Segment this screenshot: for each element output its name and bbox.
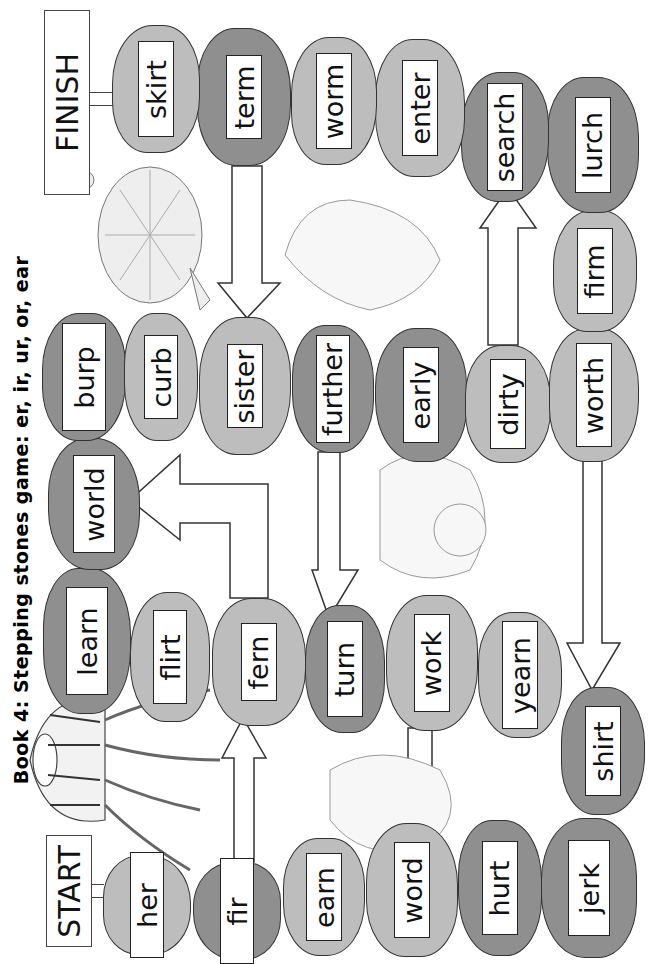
stone-fir[interactable]: fir bbox=[193, 862, 281, 960]
stone-word: further bbox=[318, 342, 349, 435]
stone-word: enter bbox=[405, 72, 436, 144]
stone-early[interactable]: early bbox=[375, 328, 467, 462]
stone-skirt[interactable]: skirt bbox=[112, 25, 200, 153]
stone-word: early bbox=[406, 361, 437, 429]
stone-earn[interactable]: earn bbox=[283, 838, 365, 956]
start-label: START bbox=[52, 845, 87, 938]
stone-lurch[interactable]: lurch bbox=[547, 77, 639, 213]
stone-word: lurch bbox=[578, 111, 609, 178]
stone-word: turn bbox=[330, 641, 361, 696]
stone-word: worth bbox=[579, 356, 610, 433]
stone-firm[interactable]: firm bbox=[553, 210, 637, 332]
stone-burp[interactable]: burp bbox=[42, 313, 126, 441]
stone-curb[interactable]: curb bbox=[124, 313, 198, 441]
stone-further[interactable]: further bbox=[292, 325, 374, 453]
stone-work[interactable]: work bbox=[386, 595, 478, 731]
stone-yearn[interactable]: yearn bbox=[478, 612, 562, 738]
stone-word: dirty bbox=[493, 373, 524, 435]
stone-word: her bbox=[132, 883, 163, 928]
finish-box: FINISH bbox=[44, 10, 90, 195]
stone-word: earn bbox=[309, 867, 340, 928]
stone-her[interactable]: her bbox=[103, 855, 191, 955]
stone-word: yearn bbox=[505, 637, 536, 714]
stone-shirt[interactable]: shirt bbox=[561, 687, 645, 815]
turtle-icon bbox=[70, 167, 210, 310]
stone-word: fern bbox=[244, 635, 275, 689]
stone-jerk[interactable]: jerk bbox=[541, 818, 637, 958]
stone-worth[interactable]: worth bbox=[549, 328, 639, 462]
fairy-icon bbox=[285, 200, 486, 852]
finish-label: FINISH bbox=[50, 53, 85, 152]
stone-word: term bbox=[229, 65, 260, 129]
stone-word: burp bbox=[69, 346, 100, 409]
stone-word: fir bbox=[221, 897, 252, 925]
stone-term[interactable]: term bbox=[197, 28, 291, 166]
stone-sister[interactable]: sister bbox=[199, 317, 291, 455]
start-box: START bbox=[46, 835, 92, 947]
stone-hurt[interactable]: hurt bbox=[458, 820, 542, 956]
stone-word: learn bbox=[72, 607, 103, 675]
stone-word: sister bbox=[230, 349, 261, 423]
stone-fern[interactable]: fern bbox=[212, 598, 306, 726]
stone-dirty[interactable]: dirty bbox=[465, 345, 551, 463]
stone-world[interactable]: world bbox=[48, 438, 140, 570]
stone-word: firm bbox=[580, 244, 611, 298]
stone-worm[interactable]: worm bbox=[291, 37, 377, 165]
stone-word: shirt bbox=[588, 721, 619, 781]
stone-word: hurt bbox=[485, 860, 516, 916]
stone-word: word bbox=[397, 857, 428, 923]
stone-word: worm bbox=[319, 63, 350, 139]
stone-enter[interactable]: enter bbox=[375, 39, 465, 177]
stone-word: work bbox=[417, 630, 448, 695]
stone-word: skirt bbox=[141, 60, 172, 119]
stone-search[interactable]: search bbox=[461, 72, 549, 202]
stone-word: world bbox=[79, 467, 110, 541]
stone-learn[interactable]: learn bbox=[43, 568, 131, 714]
stone-word: jerk bbox=[574, 863, 605, 914]
stone-word: curb bbox=[146, 347, 177, 407]
stone-flirt[interactable]: flirt bbox=[130, 592, 210, 722]
stone-word: flirt bbox=[155, 634, 186, 680]
stone-word[interactable]: word bbox=[366, 823, 458, 957]
stone-word: search bbox=[490, 92, 521, 182]
stone-turn[interactable]: turn bbox=[305, 605, 385, 733]
